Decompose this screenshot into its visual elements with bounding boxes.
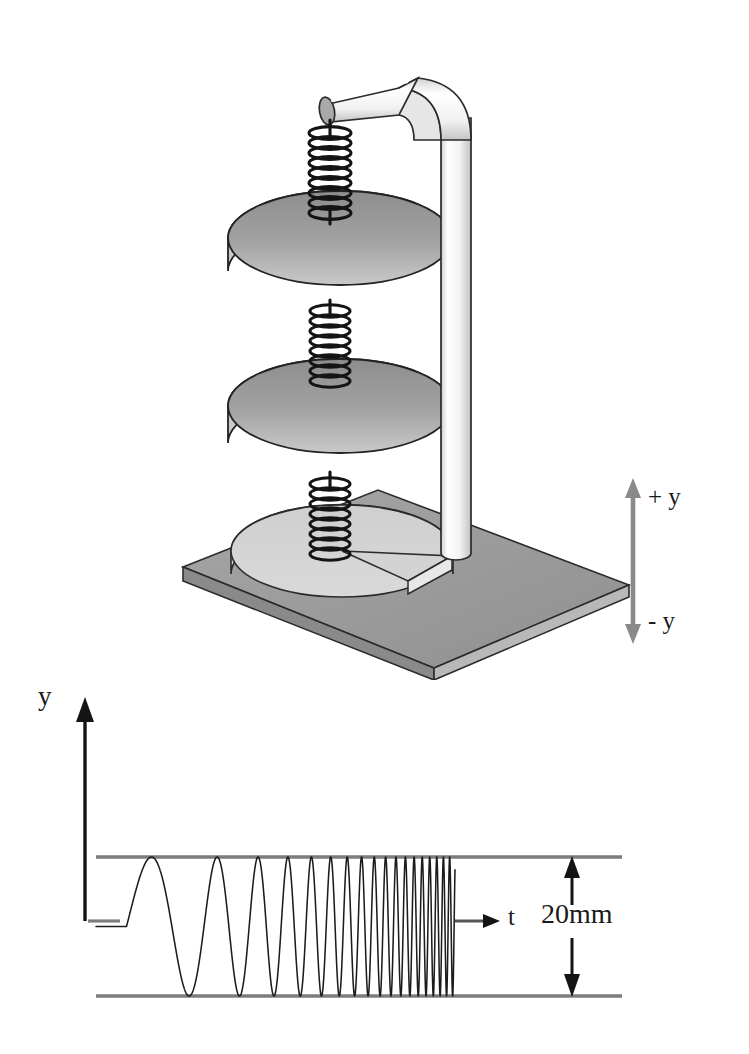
chart-y-axis-label: y — [38, 683, 52, 710]
chirp-chart — [0, 0, 749, 1054]
chirp-waveform — [96, 857, 455, 996]
dimension-label: 20mm — [541, 900, 613, 928]
chart-y-axis — [76, 697, 94, 921]
chart-t-axis — [455, 914, 500, 928]
figure-root: + y - y y t 20mm — [0, 0, 749, 1054]
chart-t-axis-label: t — [508, 904, 515, 929]
